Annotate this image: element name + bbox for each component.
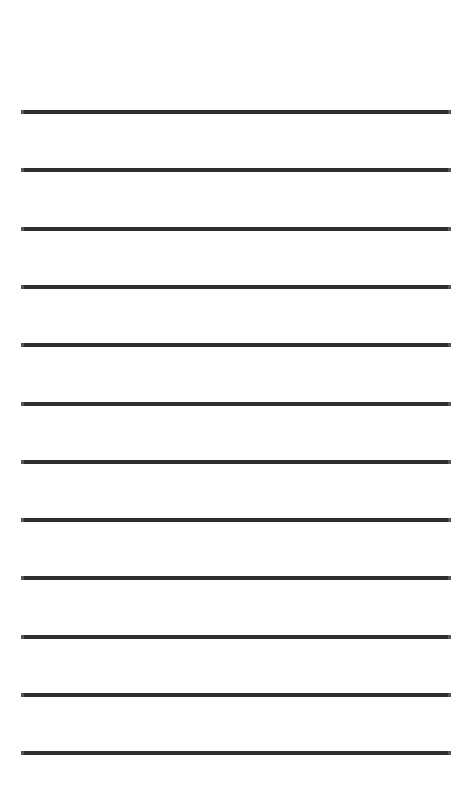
writing-line-6[interactable] [21, 347, 451, 401]
lined-paper-page [0, 0, 472, 809]
writing-line-2[interactable] [21, 114, 451, 168]
writing-line-7[interactable] [21, 406, 451, 460]
writing-line-9[interactable] [21, 522, 451, 576]
writing-line-10[interactable] [21, 580, 451, 634]
writing-line-11[interactable] [21, 639, 451, 693]
writing-line-5[interactable] [21, 289, 451, 343]
writing-line-1[interactable] [21, 56, 451, 110]
writing-line-3[interactable] [21, 172, 451, 226]
rule-line-12 [21, 751, 451, 755]
writing-line-8[interactable] [21, 464, 451, 518]
writing-line-4[interactable] [21, 231, 451, 285]
writing-line-12[interactable] [21, 697, 451, 751]
